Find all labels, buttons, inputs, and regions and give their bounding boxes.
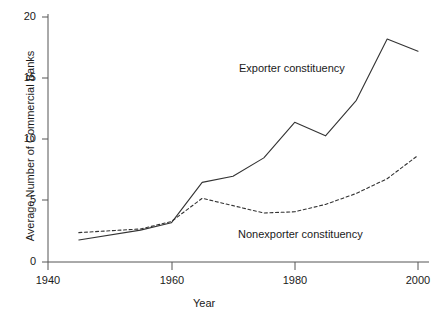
annotation-exporter-constituency: Exporter constituency (239, 62, 345, 74)
y-tick-label-0: 0 (14, 255, 36, 267)
x-tick-label-1940: 1940 (28, 274, 68, 286)
annotation-nonexporter-constituency: Nonexporter constituency (238, 228, 363, 240)
x-tick-label-1960: 1960 (152, 274, 192, 286)
y-axis-ticks (42, 17, 48, 262)
x-tick-label-2000: 2000 (398, 274, 435, 286)
y-tick-label-20: 20 (14, 10, 36, 22)
y-axis-title: Average Number of Commercial Banks (24, 46, 36, 246)
chart-figure: 20 15 10 5 0 1940 1960 1980 2000 Average… (0, 0, 435, 321)
chart-plot-area (0, 0, 435, 321)
x-axis-title: Year (193, 297, 215, 309)
x-axis-ticks (48, 262, 418, 270)
chart-axes (48, 14, 429, 262)
x-tick-label-1980: 1980 (275, 274, 315, 286)
